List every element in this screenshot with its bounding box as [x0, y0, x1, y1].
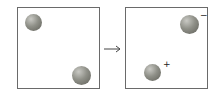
negative-charge-label: −	[200, 11, 208, 20]
after-box: − +	[125, 7, 208, 89]
arrow-right-icon	[104, 45, 122, 53]
sphere-top-left	[25, 14, 42, 31]
sphere-negative	[180, 15, 199, 34]
positive-charge-label: +	[163, 60, 171, 69]
before-box	[17, 7, 100, 89]
sphere-bottom-right	[72, 66, 91, 85]
sphere-positive	[144, 64, 161, 81]
